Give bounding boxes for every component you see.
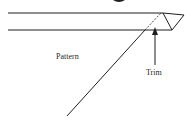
- cropped-glyph: [113, 0, 125, 2]
- pattern-line: [67, 30, 145, 116]
- trim-diagram: Pattern Trim: [0, 0, 192, 126]
- trim-arrow-head-icon: [152, 27, 158, 35]
- pattern-label: Pattern: [56, 52, 79, 61]
- trim-triangle: [163, 13, 184, 30]
- trim-label: Trim: [146, 68, 162, 77]
- pattern-cut-line-dashed: [145, 13, 161, 30]
